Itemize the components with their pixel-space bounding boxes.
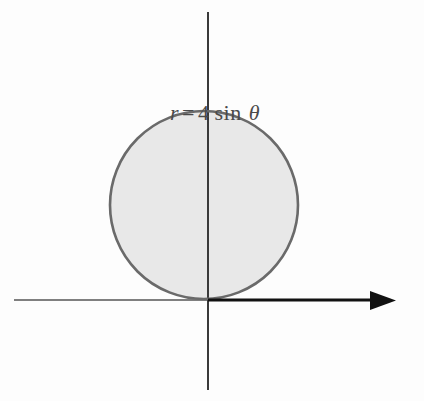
- equation-function: sin: [209, 100, 241, 125]
- polar-figure: r=4sinθ: [0, 0, 424, 401]
- equation-variable: r: [170, 100, 179, 125]
- axis-arrowhead-icon: [370, 291, 396, 310]
- figure-canvas: [0, 0, 424, 401]
- equation-label: r=4sinθ: [146, 74, 260, 152]
- equation-coefficient: 4: [198, 100, 210, 125]
- equation-argument: θ: [242, 100, 260, 125]
- equation-operator: =: [179, 100, 198, 125]
